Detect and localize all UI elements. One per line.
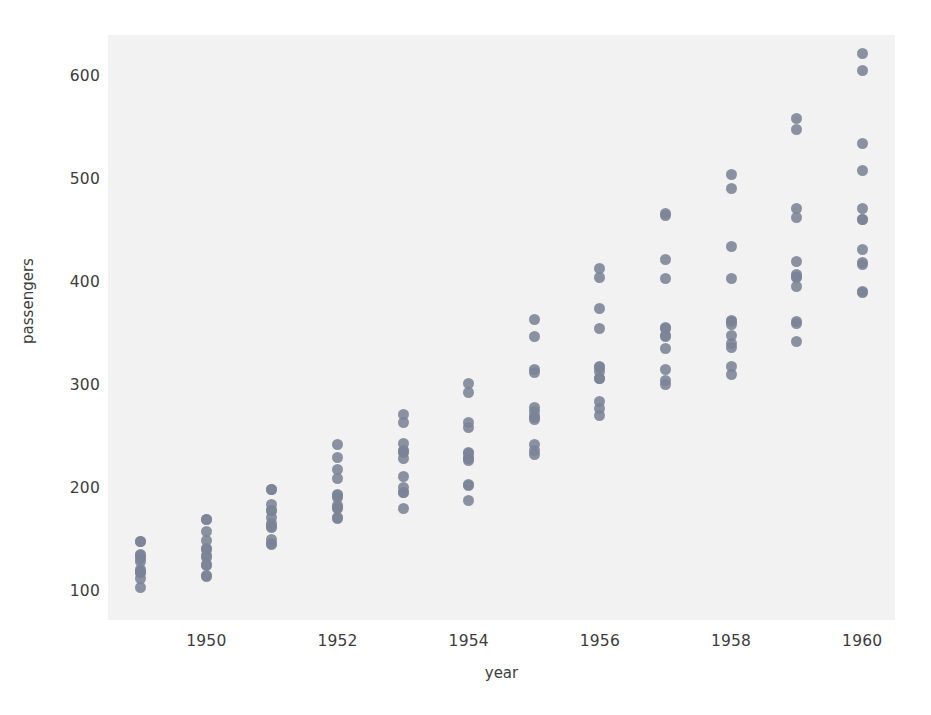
flights-scatter-figure: 100200300400500600 195019521954195619581… [0,0,931,715]
data-point [791,272,802,283]
data-point [463,480,474,491]
data-point [857,65,868,76]
x-tick-label: 1956 [555,632,645,650]
data-point [857,203,868,214]
data-point [332,512,343,523]
data-point [857,244,868,255]
y-tick-label: 600 [38,67,100,85]
y-axis-title: passengers [19,221,37,381]
data-point [791,113,802,124]
data-point [594,303,605,314]
data-point [398,503,409,514]
data-point [660,331,671,342]
data-point [857,287,868,298]
data-point [332,452,343,463]
data-point [726,273,737,284]
data-point [529,314,540,325]
data-point [201,526,212,537]
data-point [398,471,409,482]
data-point [857,48,868,59]
data-point [660,208,671,219]
data-point [594,272,605,283]
data-point [529,331,540,342]
data-point [791,256,802,267]
data-point [857,257,868,268]
x-tick-label: 1954 [424,632,514,650]
x-tick-label: 1958 [686,632,776,650]
data-point [791,124,802,135]
data-point [857,138,868,149]
data-point [726,342,737,353]
data-point [463,422,474,433]
y-tick-label: 100 [38,582,100,600]
data-point [529,445,540,456]
plot-area [108,35,895,620]
y-tick-label: 500 [38,170,100,188]
data-point [791,212,802,223]
data-point [726,241,737,252]
y-tick-label: 200 [38,479,100,497]
data-point [463,495,474,506]
scatter-points-layer [108,35,895,620]
data-point [594,323,605,334]
data-point [135,582,146,593]
data-point [332,489,343,500]
data-point [332,439,343,450]
data-point [398,409,409,420]
data-point [266,484,277,495]
x-tick-label: 1952 [293,632,383,650]
x-axis-tick-labels: 195019521954195619581960 [108,632,895,656]
data-point [660,273,671,284]
data-point [463,453,474,464]
data-point [660,254,671,265]
data-point [660,375,671,386]
data-point [201,571,212,582]
data-point [857,214,868,225]
data-point [594,410,605,421]
data-point [726,330,737,341]
y-tick-label: 300 [38,376,100,394]
data-point [660,343,671,354]
data-point [201,514,212,525]
data-point [135,536,146,547]
data-point [726,319,737,330]
data-point [726,369,737,380]
data-point [463,387,474,398]
data-point [398,445,409,456]
data-point [660,364,671,375]
data-point [857,165,868,176]
data-point [594,373,605,384]
x-tick-label: 1960 [817,632,907,650]
x-tick-label: 1950 [161,632,251,650]
data-point [398,482,409,493]
data-point [726,169,737,180]
data-point [332,473,343,484]
data-point [529,367,540,378]
data-point [726,183,737,194]
y-tick-label: 400 [38,273,100,291]
x-axis-title: year [108,664,895,682]
data-point [135,549,146,560]
data-point [791,336,802,347]
data-point [791,316,802,327]
